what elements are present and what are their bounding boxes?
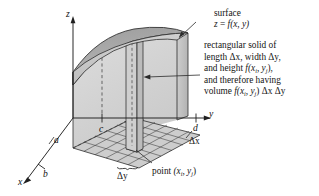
solid-label-delta-y: Δy xyxy=(268,52,278,62)
delta-y-brace xyxy=(117,168,138,170)
tick-label-d: d xyxy=(193,122,198,133)
representative-solid-column xyxy=(126,34,143,153)
solid-label-line5: volume f(xi, yj) Δx Δy xyxy=(204,86,285,99)
point-label-comma-y: , y xyxy=(182,166,191,176)
solid-label-comma-y: , y xyxy=(257,63,266,73)
z-axis-label: z xyxy=(66,8,70,19)
solid-label-height-word: and height xyxy=(204,63,245,73)
figure-canvas: surface z = f(x, y) rectangular solid of… xyxy=(0,0,319,196)
point-label-word: point xyxy=(152,166,173,176)
surface-label-equals: = xyxy=(218,19,228,29)
surface-label-args: (x, y) xyxy=(230,19,249,29)
surface-label-equation: z = f(x, y) xyxy=(214,19,249,30)
tick-label-a: a xyxy=(54,134,59,145)
y-axis-label: y xyxy=(209,108,213,119)
tick-label-b: b xyxy=(43,168,48,179)
delta-y-label: Δy xyxy=(117,171,128,182)
point-label-close: ) xyxy=(193,166,196,176)
solid-label-width-word: , width xyxy=(240,52,268,62)
solid-label-volume-comma-y: , y xyxy=(246,86,255,96)
solid-label-length-word: length xyxy=(204,52,230,62)
solid-label-line4: and therefore having xyxy=(204,75,281,86)
solid-label-line1: rectangular solid of xyxy=(204,40,276,51)
solid-label-line2: length Δx, width Δy, xyxy=(204,52,281,63)
delta-x-label: Δx xyxy=(189,136,200,147)
solid-label-volume-word: volume xyxy=(204,86,234,96)
surface-label-line1: surface xyxy=(214,8,241,19)
solid-label-comma: , xyxy=(278,52,280,62)
solid-label-volume-delta-y: Δy xyxy=(275,86,286,96)
solid-label-volume-open-x: (x xyxy=(237,86,244,96)
point-label-open-x: (x xyxy=(173,166,180,176)
solid-label-close-paren: ), xyxy=(267,63,272,73)
tick-label-c: c xyxy=(99,123,103,134)
point-label: point (xi, yj) xyxy=(152,166,196,179)
x-axis-label: x xyxy=(18,176,22,187)
solid-label-delta-x: Δx xyxy=(230,52,241,62)
solid-label-volume-delta-x: Δx xyxy=(262,86,273,96)
